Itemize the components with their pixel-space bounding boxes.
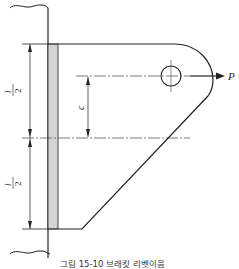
half-length-label-top: l 2 [3,84,23,96]
half-length-label-bottom: l 2 [3,177,23,189]
force-arrow [190,73,225,80]
svg-text:l: l [3,90,13,93]
break-line-bottom [10,251,50,254]
break-line-top [10,5,48,8]
plate-strip [48,44,58,229]
dimension-offset-c [86,77,90,137]
dimension-length [28,44,32,229]
svg-text:l: l [3,183,13,186]
force-label: P [227,70,235,82]
bracket-outline [58,44,213,229]
figure-caption: 그림 15-10 브래킷 리벳이음 [60,259,165,269]
svg-text:2: 2 [13,182,23,187]
bracket-rivet-joint-diagram: P l 2 l 2 c 그림 15-10 브래킷 리벳이음 [0,0,239,269]
svg-text:2: 2 [13,89,23,94]
offset-label: c [75,105,86,110]
